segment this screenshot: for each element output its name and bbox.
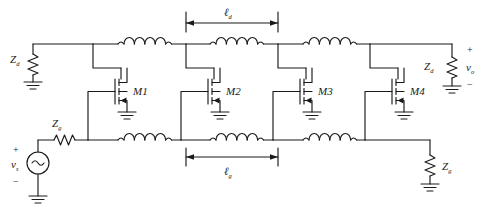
distributed-amplifier-schematic: Zd Zd + vo − Zg Zg + vs (0, 0, 481, 215)
vo-minus-sign: − (467, 79, 473, 90)
m3-drain-wire (278, 44, 306, 68)
m4-drain-top-lead (396, 68, 404, 83)
zd-output-label: Zd (424, 60, 434, 74)
vo-label: vo (466, 61, 475, 75)
m2-label: M2 (225, 85, 241, 97)
zd-right-resistor (447, 57, 457, 78)
lg-label: ℓg (224, 165, 233, 179)
zd-left-ground-symbol (24, 82, 42, 89)
m3-label: M3 (317, 85, 333, 97)
m1-drain-top-lead (119, 68, 127, 83)
lg-arrow-left (186, 154, 194, 159)
m4-gate-lead (365, 92, 392, 141)
vs-ground-symbol (29, 196, 47, 203)
zg-right-ground-symbol (421, 184, 439, 191)
zd-left-resistor (28, 54, 38, 75)
vs-plus-sign: + (13, 144, 19, 155)
gate-inductor-1 (118, 133, 172, 140)
vs-sine-glyph (32, 161, 44, 166)
stage-1 (88, 44, 136, 140)
drain-inductor-3 (303, 37, 357, 44)
drain-inductor-1 (118, 37, 172, 44)
m3-source-ground (303, 112, 321, 119)
gate-inductor-3 (303, 133, 357, 140)
m1-source-ground (118, 112, 136, 119)
stage-4 (365, 44, 413, 140)
m1-source-arrow (121, 98, 127, 104)
zd-input-label: Zd (10, 53, 20, 67)
m3-gate-lead (273, 92, 300, 141)
m1-drain-wire (93, 44, 121, 68)
m3-source-arrow (306, 98, 312, 104)
m1-label: M1 (132, 85, 148, 97)
stage-2 (181, 44, 229, 140)
vs-minus-sign: − (13, 176, 19, 187)
lg-arrow-right (270, 154, 278, 159)
vo-plus-sign: + (467, 44, 473, 55)
ld-arrow-left (186, 20, 194, 25)
m2-drain-wire (186, 44, 214, 68)
m2-source-arrow (214, 98, 220, 104)
m2-gate-lead (181, 92, 208, 141)
m3-drain-top-lead (304, 68, 312, 83)
m4-drain-wire (370, 44, 398, 68)
drain-inductor-2 (210, 37, 264, 44)
ld-dimension (186, 12, 278, 32)
zg-input-label: Zg (52, 117, 62, 131)
zg-left-resistor (54, 135, 75, 145)
zd-right-ground-symbol (443, 86, 461, 93)
lg-dimension (186, 148, 278, 166)
m2-source-ground (211, 112, 229, 119)
m4-source-arrow (398, 98, 404, 104)
ld-arrow-right (270, 20, 278, 25)
zg-right-resistor (425, 155, 435, 176)
ld-label: ℓd (224, 6, 233, 20)
zg-output-label: Zg (442, 160, 452, 174)
vs-label: vs (11, 158, 19, 172)
m2-drain-top-lead (212, 68, 220, 83)
m4-label: M4 (409, 85, 425, 97)
stage-3 (273, 44, 321, 140)
circuit-diagram-canvas: Zd Zd + vo − Zg Zg + vs (0, 0, 481, 215)
m4-source-ground (395, 112, 413, 119)
m1-gate-lead (88, 92, 115, 141)
gate-inductor-2 (210, 133, 264, 140)
